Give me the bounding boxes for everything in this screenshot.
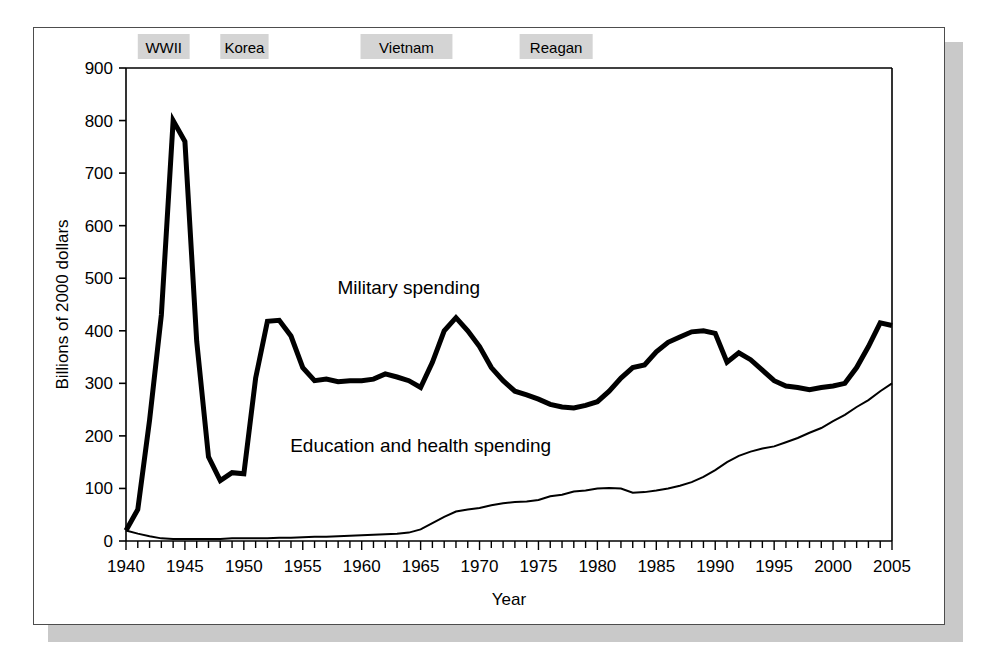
x-tick-label: 1950: [225, 557, 263, 576]
y-tick-label: 600: [85, 217, 113, 236]
x-tick-label: 1985: [637, 557, 675, 576]
x-tick-label: 1995: [755, 557, 793, 576]
x-tick-label: 1945: [166, 557, 204, 576]
y-tick-label: 500: [85, 269, 113, 288]
x-tick-label: 1965: [402, 557, 440, 576]
y-tick-label: 200: [85, 427, 113, 446]
line-chart: WWIIKoreaVietnamReagan010020030040050060…: [34, 28, 946, 626]
x-tick-label: 1990: [696, 557, 734, 576]
x-tick-label: 2000: [814, 557, 852, 576]
x-tick-label: 1970: [461, 557, 499, 576]
x-axis-title: Year: [492, 590, 527, 609]
series-label-military: Military spending: [338, 277, 481, 298]
y-tick-label: 700: [85, 164, 113, 183]
annotation-label-wwii: WWII: [145, 39, 182, 56]
y-tick-label: 800: [85, 112, 113, 131]
y-tick-label: 0: [104, 532, 113, 551]
y-tick-label: 400: [85, 322, 113, 341]
series-line-education: [126, 383, 892, 539]
screenshot-page: WWIIKoreaVietnamReagan010020030040050060…: [0, 0, 990, 672]
x-tick-label: 1940: [107, 557, 145, 576]
annotation-label-reagan: Reagan: [530, 39, 583, 56]
y-tick-label: 900: [85, 59, 113, 78]
series-label-education: Education and health spending: [290, 435, 551, 456]
y-axis-title: Billions of 2000 dollars: [53, 219, 72, 389]
y-tick-label: 300: [85, 374, 113, 393]
y-tick-label: 100: [85, 479, 113, 498]
x-tick-label: 1980: [578, 557, 616, 576]
x-tick-label: 1975: [520, 557, 558, 576]
annotation-label-korea: Korea: [224, 39, 265, 56]
x-tick-label: 2005: [873, 557, 911, 576]
annotation-label-vietnam: Vietnam: [379, 39, 434, 56]
series-line-military: [126, 121, 892, 531]
x-tick-label: 1955: [284, 557, 322, 576]
figure-frame: WWIIKoreaVietnamReagan010020030040050060…: [33, 27, 945, 625]
x-tick-label: 1960: [343, 557, 381, 576]
